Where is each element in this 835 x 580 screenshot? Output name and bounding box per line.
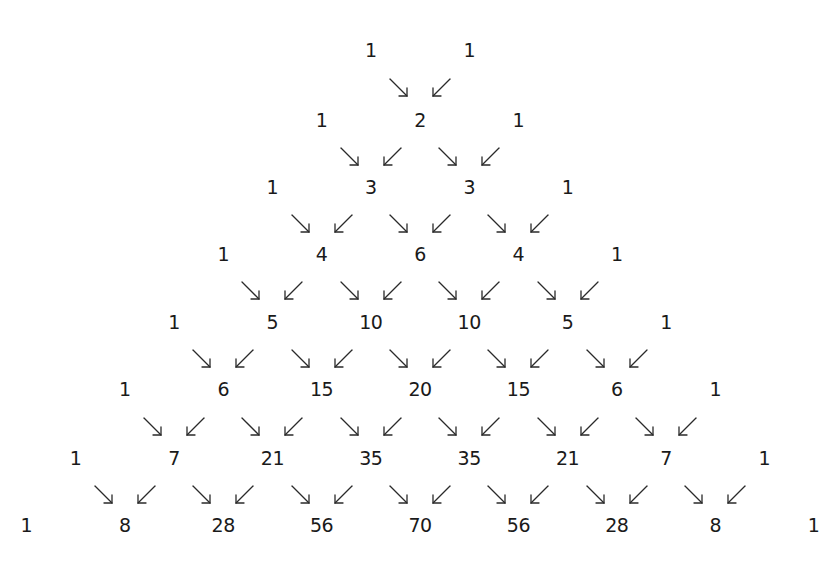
down-left-arrow-icon — [282, 416, 304, 438]
triangle-entry: 1 — [808, 514, 820, 536]
down-right-arrow-icon — [437, 416, 459, 438]
triangle-entry: 1 — [709, 378, 721, 400]
down-right-arrow-icon — [290, 213, 312, 235]
triangle-entry: 15 — [507, 378, 530, 400]
down-left-arrow-icon — [430, 77, 452, 99]
down-right-arrow-icon — [240, 280, 262, 302]
triangle-entry: 1 — [611, 243, 623, 265]
triangle-entry: 1 — [217, 243, 229, 265]
triangle-entry: 1 — [562, 176, 574, 198]
down-right-arrow-icon — [536, 416, 558, 438]
down-left-arrow-icon — [528, 213, 550, 235]
triangle-entry: 1 — [168, 311, 180, 333]
triangle-entry: 21 — [261, 447, 284, 469]
triangle-entry: 4 — [513, 243, 525, 265]
down-left-arrow-icon — [725, 484, 747, 506]
triangle-entry: 5 — [267, 311, 279, 333]
down-left-arrow-icon — [381, 146, 403, 168]
down-left-arrow-icon — [184, 416, 206, 438]
triangle-entry: 1 — [119, 378, 131, 400]
down-right-arrow-icon — [486, 213, 508, 235]
triangle-entry: 1 — [513, 109, 525, 131]
down-right-arrow-icon — [437, 146, 459, 168]
triangle-entry: 1 — [21, 514, 33, 536]
down-right-arrow-icon — [536, 280, 558, 302]
down-right-arrow-icon — [486, 484, 508, 506]
down-left-arrow-icon — [430, 213, 452, 235]
triangle-entry: 6 — [414, 243, 426, 265]
down-left-arrow-icon — [332, 348, 354, 370]
down-left-arrow-icon — [332, 213, 354, 235]
down-left-arrow-icon — [528, 484, 550, 506]
triangle-entry: 2 — [414, 109, 426, 131]
down-left-arrow-icon — [430, 348, 452, 370]
triangle-entry: 8 — [119, 514, 131, 536]
down-right-arrow-icon — [634, 416, 656, 438]
down-right-arrow-icon — [93, 484, 115, 506]
triangle-entry: 28 — [605, 514, 628, 536]
down-right-arrow-icon — [585, 348, 607, 370]
triangle-entry: 15 — [310, 378, 333, 400]
triangle-entry: 7 — [660, 447, 672, 469]
down-left-arrow-icon — [627, 348, 649, 370]
down-left-arrow-icon — [233, 348, 255, 370]
down-right-arrow-icon — [191, 484, 213, 506]
triangle-entry: 1 — [463, 39, 475, 61]
triangle-entry: 21 — [556, 447, 579, 469]
down-right-arrow-icon — [437, 280, 459, 302]
down-right-arrow-icon — [683, 484, 705, 506]
down-left-arrow-icon — [578, 416, 600, 438]
triangle-entry: 1 — [267, 176, 279, 198]
down-left-arrow-icon — [479, 416, 501, 438]
triangle-entry: 7 — [168, 447, 180, 469]
down-right-arrow-icon — [339, 416, 361, 438]
down-right-arrow-icon — [290, 484, 312, 506]
down-left-arrow-icon — [676, 416, 698, 438]
down-right-arrow-icon — [585, 484, 607, 506]
down-right-arrow-icon — [388, 77, 410, 99]
triangle-entry: 10 — [359, 311, 382, 333]
down-right-arrow-icon — [290, 348, 312, 370]
down-right-arrow-icon — [142, 416, 164, 438]
triangle-entry: 1 — [70, 447, 82, 469]
down-right-arrow-icon — [339, 146, 361, 168]
triangle-entry: 35 — [359, 447, 382, 469]
down-right-arrow-icon — [191, 348, 213, 370]
down-left-arrow-icon — [528, 348, 550, 370]
down-left-arrow-icon — [578, 280, 600, 302]
triangle-entry: 20 — [408, 378, 431, 400]
pascal-triangle-diagram: 1112113311464115101051161520156117213535… — [0, 0, 835, 580]
down-left-arrow-icon — [627, 484, 649, 506]
triangle-entry: 56 — [507, 514, 530, 536]
triangle-entry: 5 — [562, 311, 574, 333]
triangle-entry: 56 — [310, 514, 333, 536]
down-left-arrow-icon — [381, 416, 403, 438]
triangle-entry: 3 — [463, 176, 475, 198]
down-right-arrow-icon — [388, 348, 410, 370]
triangle-entry: 6 — [611, 378, 623, 400]
down-left-arrow-icon — [479, 146, 501, 168]
down-left-arrow-icon — [233, 484, 255, 506]
triangle-entry: 1 — [316, 109, 328, 131]
triangle-entry: 10 — [458, 311, 481, 333]
down-right-arrow-icon — [486, 348, 508, 370]
down-right-arrow-icon — [388, 484, 410, 506]
triangle-entry: 28 — [212, 514, 235, 536]
triangle-entry: 35 — [458, 447, 481, 469]
triangle-entry: 8 — [709, 514, 721, 536]
triangle-entry: 3 — [365, 176, 377, 198]
down-right-arrow-icon — [388, 213, 410, 235]
triangle-entry: 1 — [365, 39, 377, 61]
down-left-arrow-icon — [381, 280, 403, 302]
down-right-arrow-icon — [339, 280, 361, 302]
down-left-arrow-icon — [282, 280, 304, 302]
down-left-arrow-icon — [332, 484, 354, 506]
down-left-arrow-icon — [430, 484, 452, 506]
down-left-arrow-icon — [479, 280, 501, 302]
triangle-entry: 70 — [408, 514, 431, 536]
triangle-entry: 1 — [660, 311, 672, 333]
triangle-entry: 1 — [759, 447, 771, 469]
triangle-entry: 6 — [217, 378, 229, 400]
down-left-arrow-icon — [135, 484, 157, 506]
triangle-entry: 4 — [316, 243, 328, 265]
